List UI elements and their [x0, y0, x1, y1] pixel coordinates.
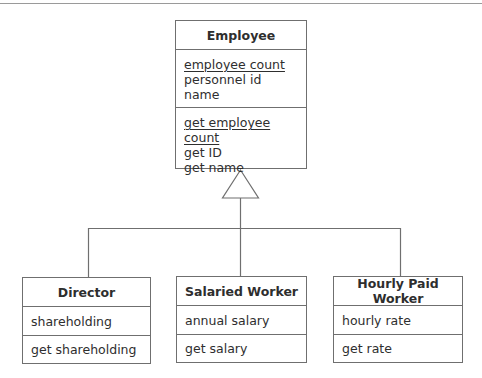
operations-section: get shareholding: [23, 336, 150, 363]
attributes-section: shareholding: [23, 307, 150, 336]
attribute: name: [184, 87, 298, 102]
operations-section: get employee count get ID get name: [176, 108, 306, 175]
class-name: Employee: [176, 21, 306, 50]
attribute: personnel id: [184, 72, 298, 87]
attribute-static: employee count: [184, 57, 298, 72]
attribute: annual salary: [185, 313, 269, 328]
operation: get shareholding: [31, 342, 136, 357]
attributes-section: employee count personnel id name: [176, 50, 306, 108]
operations-section: get rate: [334, 335, 462, 362]
operation: get rate: [342, 341, 392, 356]
operations-section: get salary: [177, 335, 306, 362]
operation: get salary: [185, 341, 247, 356]
class-hourly-paid-worker: Hourly Paid Worker hourly rate get rate: [333, 276, 463, 363]
attribute: shareholding: [31, 314, 112, 329]
attribute: hourly rate: [342, 313, 411, 328]
attributes-section: hourly rate: [334, 306, 462, 335]
class-name: Hourly Paid Worker: [334, 277, 462, 306]
class-name: Director: [23, 278, 150, 307]
operation: get ID: [184, 145, 298, 160]
class-director: Director shareholding get shareholding: [22, 277, 151, 364]
class-employee: Employee employee count personnel id nam…: [175, 20, 307, 169]
operation: get name: [184, 160, 298, 175]
attributes-section: annual salary: [177, 306, 306, 335]
class-name: Salaried Worker: [177, 277, 306, 306]
operation-static: get employee count: [184, 115, 298, 145]
class-salaried-worker: Salaried Worker annual salary get salary: [176, 276, 307, 363]
